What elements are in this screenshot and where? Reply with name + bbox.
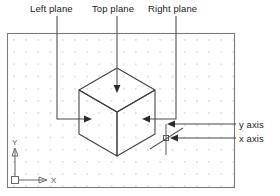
label-y-axis: y axis: [239, 119, 264, 130]
ucs-y-axis-label: Y: [12, 138, 17, 147]
isometric-cube-diagram: [0, 0, 280, 196]
ucs-x-axis-label: X: [51, 176, 56, 185]
label-x-axis: x axis: [239, 133, 264, 144]
label-top-plane: Top plane: [92, 3, 134, 14]
label-right-plane: Right plane: [148, 3, 197, 14]
label-left-plane: Left plane: [30, 3, 73, 14]
grid-dots: [8, 34, 234, 187]
